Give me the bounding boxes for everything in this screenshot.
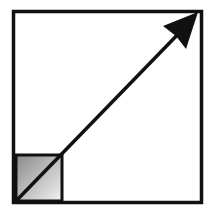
scale-diagram xyxy=(0,0,216,218)
